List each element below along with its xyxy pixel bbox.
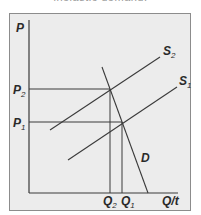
s1-label: S1 <box>179 74 191 90</box>
s2-label: S2 <box>163 44 176 60</box>
x-axis-label: Q/t <box>162 194 180 208</box>
q2-label: Q2 <box>103 194 117 210</box>
demand-curve-d <box>102 67 148 193</box>
supply-curve-s2 <box>50 57 160 130</box>
d-label: D <box>141 151 150 165</box>
y-axis-label: P <box>16 21 25 35</box>
p2-label: P2 <box>13 83 26 99</box>
q1-label: Q1 <box>121 194 135 210</box>
p1-label: P1 <box>13 116 25 132</box>
supply-demand-diagram: P P2 P1 Q2 Q1 Q/t S2 S1 D <box>0 0 201 215</box>
